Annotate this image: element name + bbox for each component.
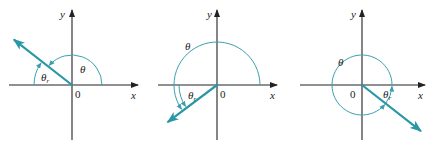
origin-label: 0 <box>350 89 356 100</box>
reference-angle-arc <box>34 63 41 85</box>
theta-arc <box>49 55 102 85</box>
theta-label: θ <box>80 64 85 75</box>
theta-r-label: θr <box>188 90 196 103</box>
y-axis-label: y <box>60 9 65 20</box>
y-axis-label: y <box>351 9 356 20</box>
theta-r-label: θr <box>41 72 49 85</box>
y-axis-label: y <box>207 9 212 20</box>
theta-label: θ <box>185 41 190 52</box>
x-axis-label: x <box>131 90 136 101</box>
origin-label: 0 <box>220 89 226 100</box>
origin-label: 0 <box>75 89 81 100</box>
x-axis-label: x <box>270 90 275 101</box>
reference-angle-arc <box>179 85 186 106</box>
x-axis-label: x <box>418 90 423 101</box>
theta-label: θ <box>338 57 343 68</box>
reference-angle-figure <box>0 0 430 146</box>
theta-r-label: θr <box>383 89 391 102</box>
